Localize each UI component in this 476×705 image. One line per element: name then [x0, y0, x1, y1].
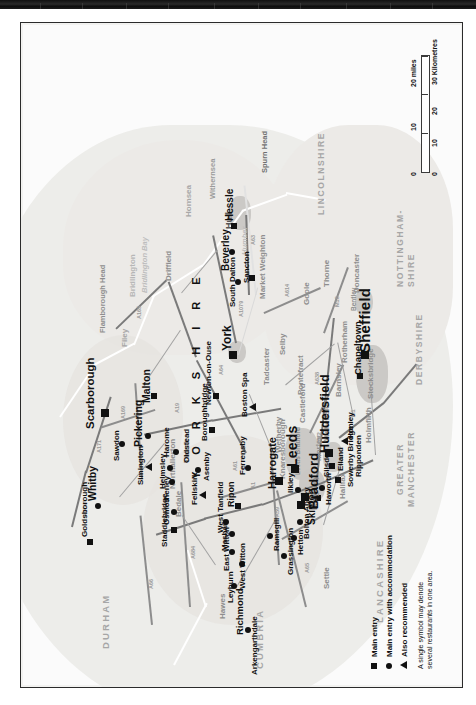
map-symbol-circle[interactable]	[171, 509, 177, 515]
map-legend: Main entry Main entry with accommodation…	[369, 489, 445, 669]
road-number: A63	[251, 235, 257, 245]
map-symbol-square[interactable]	[213, 393, 219, 399]
map-symbol-circle[interactable]	[173, 449, 179, 455]
place-label-simington: Simington	[137, 446, 145, 485]
place-label-malton: Malton	[141, 369, 152, 403]
place-label-york: York	[221, 325, 233, 351]
scale-label-km: 30 Kilometres	[431, 39, 438, 85]
place-label-pickering: Pickering	[133, 400, 144, 447]
place-label-ramsgill: Ramsgill	[273, 518, 281, 551]
legend-label-also-recommended: Also recommended	[400, 583, 409, 657]
map-symbol-circle[interactable]	[145, 433, 151, 439]
road-number: A165	[137, 306, 143, 319]
grey-place-settle: Settle	[323, 567, 331, 589]
place-label-feliskirk: Feliskirk	[191, 473, 199, 505]
scale-label-miles: 20 miles	[410, 59, 417, 87]
scale-bar-track	[421, 55, 430, 173]
place-label-harrogate: Harrogate	[267, 437, 278, 489]
grey-place-rotherham: Rotherham	[341, 321, 349, 363]
scale-bar-tick	[421, 56, 428, 57]
scale-bar-tick	[421, 133, 428, 134]
place-label-richmond: Richmond	[235, 589, 245, 635]
road-number: A1079	[239, 301, 245, 317]
legend-symbol-circle	[386, 663, 392, 669]
road-number: A59	[275, 507, 281, 517]
road-number: A684	[191, 546, 197, 559]
water-label-withernsea: Withernsea	[209, 159, 217, 199]
map-page: DURHAM CUMBRIA LANCASHIRE GREATER MANCHE…	[8, 22, 467, 694]
road-number: A65	[305, 563, 311, 573]
legend-note: A single symbol may denote several resta…	[417, 571, 435, 669]
map-symbol-square[interactable]	[209, 427, 215, 433]
map-symbol-circle[interactable]	[167, 465, 173, 471]
page-edge-strip	[0, 0, 476, 9]
legend-label-main-entry: Main entry	[370, 617, 379, 657]
map-frame[interactable]: DURHAM CUMBRIA LANCASHIRE GREATER MANCHE…	[20, 22, 463, 688]
grey-place-tadcaster: Tadcaster	[263, 348, 271, 385]
grey-place-bridlington: Bridlington	[129, 254, 137, 297]
place-label-ripon: Ripon	[227, 482, 236, 508]
scale-tick-km-10: 10	[431, 139, 438, 147]
place-label-boston-spa: Boston Spa	[241, 373, 249, 417]
map-canvas: DURHAM CUMBRIA LANCASHIRE GREATER MANCHE…	[23, 25, 461, 685]
map-symbol-triangle[interactable]	[199, 491, 206, 499]
map-symbol-square[interactable]	[101, 409, 109, 417]
place-label-bradford: Bradford	[307, 453, 320, 510]
place-label-honley: Honley	[347, 412, 355, 439]
place-label-newton-on-ouse: Newton-on-Ouse	[205, 341, 213, 405]
legend-label-main-entry-accommodation: Main entry with accommodation	[385, 535, 394, 657]
place-label-huddersfield: Huddersfield	[319, 374, 332, 453]
map-symbol-square[interactable]	[87, 539, 93, 545]
grey-place-market-weighton: Market Weighton	[259, 235, 267, 299]
map-symbol-square[interactable]	[335, 477, 341, 483]
road-number: M18	[335, 296, 341, 307]
place-label-sawdon: Sawdon	[113, 430, 121, 461]
scale-tick-miles-10: 10	[410, 123, 417, 131]
place-label-beverley: Beverley	[221, 229, 231, 271]
map-symbol-triangle[interactable]	[249, 403, 256, 411]
county-label-durham: DURHAM	[101, 594, 111, 649]
water-label-flamborough-head: Flamborough Head	[99, 265, 107, 333]
place-label-grassington: Grassington	[287, 528, 295, 575]
road-number: A66	[149, 579, 155, 589]
grey-place-hornsea: Hornsea	[185, 185, 193, 217]
place-label-west-witton: West Witton	[239, 543, 247, 589]
scale-tick-km-0: 0	[431, 172, 438, 176]
place-label-scarborough: Scarborough	[85, 357, 97, 429]
legend-symbol-triangle	[400, 661, 407, 669]
road-number: A1	[251, 482, 257, 489]
place-label-harome: Harome	[163, 427, 171, 457]
place-label-asenby: Asenby	[203, 452, 211, 481]
grey-place-filey: Filey	[121, 329, 129, 347]
place-label-arkengarthdale: Arkengarthdale	[251, 616, 259, 675]
map-symbol-square[interactable]	[229, 351, 237, 359]
place-label-sancton: Sancton	[243, 251, 251, 283]
grey-place-goole: Goole	[303, 282, 311, 305]
place-label-elland: Elland	[337, 447, 345, 471]
grey-place-selby: Selby	[279, 334, 287, 355]
road-number: A64	[219, 365, 225, 375]
map-symbol-circle[interactable]	[95, 503, 101, 509]
place-label-ferrensby: Ferrensby	[239, 436, 247, 475]
water-label-bridlington-bay: Bridlington Bay	[141, 237, 149, 293]
place-label-leeds: Leeds	[285, 426, 299, 467]
place-label-hessle: Hessle	[225, 189, 235, 221]
grey-place-pontefract: Pontefract	[297, 355, 305, 395]
scale-tick-miles-0: 0	[410, 172, 417, 176]
place-label-east-witton: East Witton	[223, 527, 231, 571]
road-number: A169	[121, 406, 127, 419]
map-scale-bar: 0 10 20 miles 0 10 20 30 Kilometres	[409, 39, 443, 179]
rotated-map-canvas: DURHAM CUMBRIA LANCASHIRE GREATER MANCHE…	[23, 25, 461, 685]
scale-bar-tick	[421, 94, 428, 95]
county-label-nottinghamshire: NOTTINGHAM- SHIRE	[395, 209, 416, 287]
place-label-oldstead: Oldstead	[183, 429, 191, 463]
place-label-ilkley: Ilkley	[287, 473, 295, 493]
place-label-sheffield: Sheffield	[357, 288, 372, 353]
grey-place-holmfirth: Holmfirth	[365, 407, 373, 443]
grey-place-thorne: Thorne	[323, 260, 331, 287]
map-symbol-square[interactable]	[171, 527, 177, 533]
map-symbol-square[interactable]	[231, 223, 237, 229]
map-symbol-circle[interactable]	[295, 487, 301, 493]
road-number: A614	[285, 284, 291, 297]
map-symbol-triangle[interactable]	[145, 463, 152, 471]
